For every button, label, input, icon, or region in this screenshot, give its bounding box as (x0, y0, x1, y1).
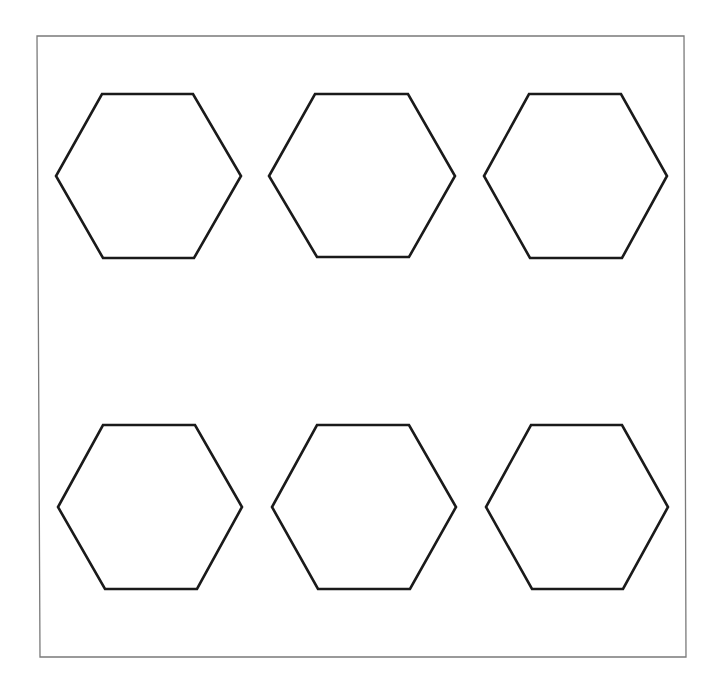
hexagon-2 (269, 94, 455, 257)
hexagon-4 (58, 425, 242, 589)
hexagon-5 (272, 425, 456, 589)
hexagon-6 (486, 425, 668, 589)
hexagon-3 (484, 94, 667, 258)
diagram-canvas (0, 0, 720, 688)
hexagon-grid (56, 94, 668, 589)
hexagon-1 (56, 94, 241, 258)
